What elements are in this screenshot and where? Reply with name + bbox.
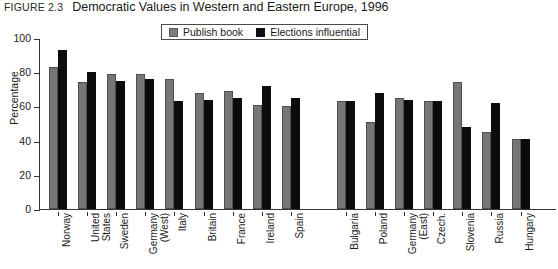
y-axis-tick: 20 (34, 176, 39, 177)
y-axis-tick-label: 20 (19, 169, 31, 181)
bar-group (512, 38, 530, 209)
bar-publish-book (424, 101, 433, 209)
bar-group (195, 38, 213, 209)
bar-publish-book (453, 82, 462, 209)
bar-elections-influential (58, 50, 67, 209)
legend-entry: Elections influential (256, 26, 360, 38)
x-axis-tick (521, 212, 522, 216)
legend-label: Publish book (183, 26, 243, 38)
x-axis-tick (262, 212, 263, 216)
x-axis-labels: NorwayUnited StatesSwedenGermany (West)I… (39, 212, 556, 269)
bar-group (253, 38, 271, 209)
x-axis-tick-label: Czech. (437, 213, 448, 269)
bar-group (78, 38, 96, 209)
y-axis-tick-label: 80 (19, 66, 31, 78)
figure-caption: FIGURE 2.3Democratic Values in Western a… (4, 0, 554, 13)
y-axis-tick: 80 (34, 73, 39, 74)
bar-publish-book (136, 74, 145, 209)
bar-elections-influential (346, 101, 355, 209)
x-axis-tick-label: Britain (208, 213, 219, 269)
x-axis-tick-label: France (237, 213, 248, 269)
bar-publish-book (107, 74, 116, 209)
bar-group (49, 38, 67, 209)
bar-publish-book (512, 139, 521, 209)
x-axis-tick (291, 212, 292, 216)
x-axis-tick-label: Germany (East) (408, 213, 429, 269)
bar-elections-influential (521, 139, 530, 209)
bar-elections-influential (375, 93, 384, 209)
x-axis-tick-label: Hungary (525, 213, 536, 269)
x-axis-tick-label: Sweden (120, 213, 131, 269)
bar-publish-book (78, 82, 87, 209)
bar-elections-influential (262, 86, 271, 209)
x-axis-tick (462, 212, 463, 216)
bar-publish-book (337, 101, 346, 209)
bar-elections-influential (404, 100, 413, 209)
x-axis-tick (346, 212, 347, 216)
x-axis-tick-label: Russia (495, 213, 506, 269)
bar-publish-book (482, 132, 491, 209)
bar-series-container (40, 38, 556, 209)
y-axis-tick-label: 40 (19, 135, 31, 147)
x-axis-tick (233, 212, 234, 216)
bar-group (424, 38, 442, 209)
bar-group (395, 38, 413, 209)
x-axis-line (39, 209, 556, 210)
bar-group (165, 38, 183, 209)
legend-label: Elections influential (270, 26, 360, 38)
x-axis-tick-label: Slovenia (466, 213, 477, 269)
figure-number: FIGURE 2.3 (4, 1, 63, 13)
y-axis-tick: 100 (34, 39, 39, 40)
bar-group (366, 38, 384, 209)
x-axis-tick (116, 212, 117, 216)
bar-elections-influential (433, 101, 442, 209)
x-axis-tick (433, 212, 434, 216)
bar-publish-book (165, 79, 174, 209)
figure-title: Democratic Values in Western and Eastern… (72, 0, 388, 13)
x-axis-tick (491, 212, 492, 216)
bar-publish-book (224, 91, 233, 209)
bar-publish-book (253, 105, 262, 209)
legend-entry: Publish book (169, 26, 243, 38)
x-axis-tick-label: Bulgaria (350, 213, 361, 269)
bar-group (136, 38, 154, 209)
bar-elections-influential (291, 98, 300, 209)
bar-publish-book (49, 67, 58, 209)
x-axis-tick-label: Norway (62, 213, 73, 269)
legend-swatch-icon (169, 28, 178, 37)
y-axis-tick: 40 (34, 142, 39, 143)
bar-publish-book (366, 122, 375, 209)
bar-group (107, 38, 125, 209)
plot-area: 020406080100 (39, 39, 556, 210)
y-axis-tick-label: 60 (19, 100, 31, 112)
x-axis-tick (145, 212, 146, 216)
y-axis-title: Percentage (8, 58, 20, 138)
bar-publish-book (195, 93, 204, 209)
bar-elections-influential (174, 101, 183, 209)
bar-group (224, 38, 242, 209)
x-axis-tick-label: United States (91, 213, 112, 269)
y-axis-tick: 0 (34, 210, 39, 211)
x-axis-tick (174, 212, 175, 216)
bar-group (282, 38, 300, 209)
x-axis-tick (58, 212, 59, 216)
y-axis-tick: 60 (34, 107, 39, 108)
bar-elections-influential (87, 72, 96, 209)
bar-publish-book (282, 106, 291, 209)
bar-publish-book (395, 98, 404, 209)
bar-elections-influential (204, 100, 213, 209)
legend-swatch-icon (256, 28, 265, 37)
bar-elections-influential (233, 98, 242, 209)
x-axis-tick (87, 212, 88, 216)
y-axis-tick-label: 0 (25, 203, 31, 215)
x-axis-tick-label: Italy (178, 213, 189, 269)
x-axis-tick (404, 212, 405, 216)
bar-elections-influential (116, 81, 125, 209)
bar-elections-influential (145, 79, 154, 209)
bar-group (337, 38, 355, 209)
bar-group (453, 38, 471, 209)
x-axis-tick (204, 212, 205, 216)
bar-group (482, 38, 500, 209)
x-axis-tick (375, 212, 376, 216)
bar-elections-influential (462, 127, 471, 209)
